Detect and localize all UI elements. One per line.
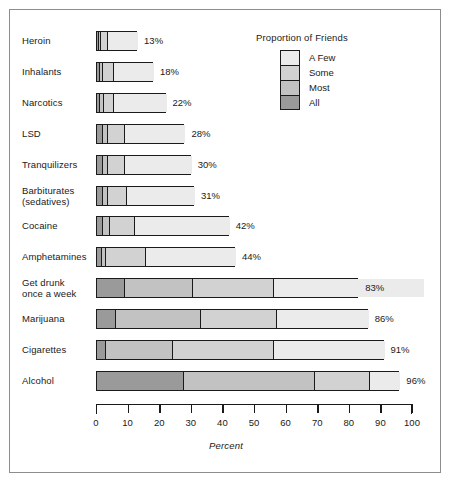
legend-label: Some — [309, 67, 334, 78]
x-axis-tick — [286, 404, 287, 413]
bar-segment-some — [104, 94, 114, 112]
bar-segment-most — [116, 310, 201, 328]
bar-segment-all — [97, 310, 116, 328]
legend-swatch-most — [280, 80, 300, 95]
x-axis-tick-label: 30 — [176, 417, 206, 428]
x-axis-tick — [412, 404, 413, 413]
bar-segment-some — [103, 63, 114, 81]
bar-segment-some — [193, 279, 274, 297]
bar-value-label: 28% — [191, 128, 210, 139]
bar-segment-some — [101, 32, 108, 50]
bar-value-label: 83% — [365, 282, 384, 293]
x-axis-tick-label: 20 — [144, 417, 174, 428]
legend-item[interactable]: Some — [280, 65, 416, 80]
bar-segment-a-few — [135, 217, 230, 235]
x-axis-tick — [222, 404, 223, 413]
bar-value-label: 18% — [160, 66, 179, 77]
stacked-bar[interactable] — [96, 247, 235, 267]
legend-item[interactable]: Most — [280, 80, 416, 95]
bar-segment-all — [97, 341, 106, 359]
category-label: Heroin — [22, 35, 262, 46]
bar-row: LSD28% — [0, 119, 452, 150]
legend-label: All — [309, 97, 320, 108]
bar-segment-some — [173, 341, 274, 359]
stacked-bar[interactable] — [96, 93, 166, 113]
legend-item[interactable]: All — [280, 95, 416, 110]
x-axis-tick — [380, 404, 381, 413]
legend-label: Most — [309, 82, 330, 93]
x-axis-tick — [317, 404, 318, 413]
bar-row: Cocaine42% — [0, 211, 452, 242]
x-axis-tick-label: 80 — [334, 417, 364, 428]
bar-segment-a-few — [114, 63, 154, 81]
stacked-bar[interactable] — [96, 186, 194, 206]
legend-swatch-some — [280, 65, 300, 80]
x-axis-tick-label: 100 — [397, 417, 427, 428]
stacked-bar[interactable] — [96, 309, 368, 329]
legend-item[interactable]: A Few — [280, 50, 416, 65]
bar-row: Amphetamines44% — [0, 242, 452, 273]
bar-segment-a-few — [146, 248, 236, 266]
chart-page: Heroin13%Inhalants18%Narcotics22%LSD28%T… — [0, 0, 452, 485]
stacked-bar[interactable] — [96, 124, 184, 144]
x-axis-tick — [254, 404, 255, 413]
bar-segment-a-few — [370, 372, 400, 390]
bar-segment-a-few — [125, 125, 185, 143]
bar-segment-some — [201, 310, 277, 328]
bar-segment-some — [108, 187, 127, 205]
x-axis-tick-label: 50 — [239, 417, 269, 428]
bar-row: Tranquilizers30% — [0, 150, 452, 181]
bar-segment-most — [106, 341, 172, 359]
x-axis-tick-label: 90 — [365, 417, 395, 428]
bar-segment-a-few — [274, 341, 385, 359]
x-axis-tick-label: 70 — [302, 417, 332, 428]
bar-row: Marijuana86% — [0, 304, 452, 335]
stacked-bar[interactable] — [96, 31, 137, 51]
bar-row: Barbiturates (sedatives)31% — [0, 181, 452, 212]
stacked-bar[interactable] — [96, 278, 358, 298]
x-axis-tick-label: 10 — [113, 417, 143, 428]
bar-segment-some — [315, 372, 370, 390]
x-axis-tick — [128, 404, 129, 413]
x-axis-tick-label: 0 — [81, 417, 111, 428]
bar-segment-a-few — [127, 187, 195, 205]
legend-swatch-all — [280, 95, 300, 110]
x-axis-tick — [349, 404, 350, 413]
plot-area: Heroin13%Inhalants18%Narcotics22%LSD28%T… — [0, 0, 452, 485]
x-axis-label: Percent — [0, 440, 452, 451]
bar-segment-some — [108, 125, 125, 143]
stacked-bar[interactable] — [96, 155, 191, 175]
x-axis-tick — [96, 404, 97, 413]
bar-value-label: 42% — [236, 220, 255, 231]
stacked-bar[interactable] — [96, 340, 384, 360]
legend-title: Proportion of Friends — [256, 32, 416, 43]
bar-segment-some — [108, 156, 125, 174]
bar-segment-a-few — [274, 279, 424, 297]
bar-value-label: 91% — [391, 344, 410, 355]
bar-segment-a-few — [108, 32, 138, 50]
bar-segment-a-few — [125, 156, 191, 174]
legend-items: A FewSomeMostAll — [280, 50, 416, 110]
bar-value-label: 31% — [201, 190, 220, 201]
x-axis-tick — [191, 404, 192, 413]
bar-segment-some — [110, 217, 135, 235]
x-axis-tick-label: 60 — [271, 417, 301, 428]
bar-segment-some — [106, 248, 146, 266]
legend-swatch-a-few — [280, 50, 300, 65]
bar-value-label: 86% — [375, 313, 394, 324]
bar-segment-a-few — [114, 94, 166, 112]
legend: Proportion of Friends A FewSomeMostAll — [256, 32, 416, 110]
bar-segment-a-few — [277, 310, 369, 328]
bar-value-label: 96% — [406, 375, 425, 386]
bar-row: Alcohol96% — [0, 366, 452, 397]
bar-value-label: 13% — [144, 35, 163, 46]
legend-label: A Few — [309, 52, 335, 63]
stacked-bar[interactable] — [96, 371, 399, 391]
bar-segment-most — [125, 279, 193, 297]
stacked-bar[interactable] — [96, 62, 153, 82]
x-axis-tick — [159, 404, 160, 413]
bar-segment-most — [184, 372, 315, 390]
bar-value-label: 44% — [242, 251, 261, 262]
bar-value-label: 22% — [173, 97, 192, 108]
stacked-bar[interactable] — [96, 216, 229, 236]
